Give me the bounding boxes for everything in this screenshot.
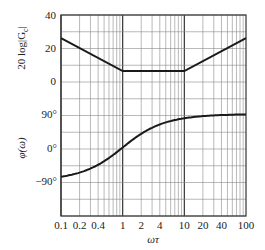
y-tick-labels: 4020090°0°−90°	[35, 9, 57, 187]
x-tick-label: 1	[120, 219, 126, 231]
x-tick-label: 100	[238, 219, 255, 231]
y-tick-label: 90°	[42, 108, 57, 120]
bode-plot: 4020090°0°−90° 0.10.20.4124102040100 20 …	[0, 0, 265, 250]
x-tick-labels: 0.10.20.4124102040100	[54, 219, 255, 231]
x-tick-label: 20	[197, 219, 209, 231]
x-tick-label: 0.4	[91, 219, 105, 231]
x-axis-label: ωτ	[147, 233, 160, 245]
y-tick-label: −90°	[35, 175, 57, 187]
y-tick-label: 40	[45, 9, 57, 21]
x-tick-label: 0.2	[73, 219, 87, 231]
y-tick-label: 0	[51, 75, 57, 87]
x-tick-label: 4	[157, 219, 163, 231]
x-tick-label: 0.1	[54, 219, 68, 231]
x-tick-label: 2	[138, 219, 144, 231]
x-tick-label: 40	[216, 219, 228, 231]
y-tick-label: 0°	[47, 142, 57, 154]
magnitude-curve	[61, 38, 246, 71]
phase-curve	[61, 114, 246, 176]
phase-axis-label: φ(ω)	[15, 137, 28, 159]
y-tick-label: 20	[45, 42, 57, 54]
magnitude-axis-label: 20 log|Gc|	[15, 26, 30, 70]
x-tick-label: 10	[179, 219, 191, 231]
